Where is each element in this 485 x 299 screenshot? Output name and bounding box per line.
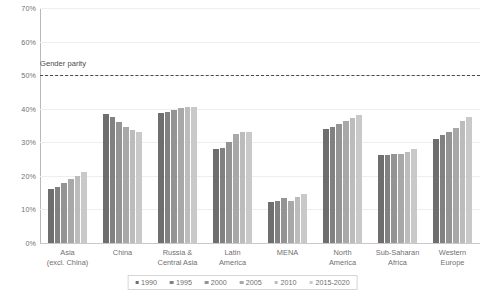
bar bbox=[55, 187, 61, 243]
x-axis-category-line: Asia bbox=[40, 248, 95, 258]
legend-item[interactable]: 2010 bbox=[275, 278, 297, 287]
bar bbox=[405, 152, 411, 243]
bar-group bbox=[433, 8, 472, 243]
bar-chart: 0%10%20%30%40%50%60%70% Gender parity As… bbox=[0, 0, 485, 299]
legend-item[interactable]: 2015-2020 bbox=[310, 278, 350, 287]
gender-parity-label: Gender parity bbox=[40, 59, 86, 68]
bar bbox=[453, 128, 459, 243]
bar bbox=[246, 132, 252, 243]
bar bbox=[136, 132, 142, 243]
bar bbox=[130, 130, 136, 243]
bar bbox=[61, 183, 67, 243]
bar bbox=[165, 112, 171, 243]
y-axis-tick-label: 40% bbox=[2, 104, 36, 113]
x-axis-category-line: Russia & bbox=[150, 248, 205, 258]
legend-item[interactable]: 1995 bbox=[170, 278, 192, 287]
x-axis-category-line: MENA bbox=[260, 248, 315, 258]
gender-parity-line bbox=[40, 75, 480, 76]
x-axis-category-label: China bbox=[95, 248, 150, 274]
bar bbox=[110, 117, 116, 243]
bar-group bbox=[378, 8, 417, 243]
x-axis-category-line: America bbox=[315, 258, 370, 268]
legend-swatch-icon bbox=[135, 281, 138, 284]
bar bbox=[301, 194, 307, 243]
x-axis-category-line: Central Asia bbox=[150, 258, 205, 268]
bar bbox=[268, 202, 274, 243]
bar bbox=[220, 148, 226, 243]
legend-label: 2010 bbox=[281, 278, 297, 287]
bar bbox=[81, 172, 87, 243]
bar bbox=[323, 129, 329, 243]
legend-label: 2005 bbox=[246, 278, 262, 287]
bar bbox=[466, 117, 472, 243]
y-axis-tick-label: 10% bbox=[2, 205, 36, 214]
x-axis-category-line: Latin bbox=[205, 248, 260, 258]
x-axis-category-line: North bbox=[315, 248, 370, 258]
legend-swatch-icon bbox=[240, 281, 243, 284]
x-axis-labels: Asia(excl. China)ChinaRussia &Central As… bbox=[40, 248, 480, 274]
bar bbox=[330, 127, 336, 243]
y-axis-tick-label: 70% bbox=[2, 4, 36, 13]
bar bbox=[378, 155, 384, 243]
bar bbox=[103, 114, 109, 243]
y-axis-tick-label: 0% bbox=[2, 239, 36, 248]
bar bbox=[446, 132, 452, 243]
bar bbox=[281, 198, 287, 243]
y-axis-tick-label: 30% bbox=[2, 138, 36, 147]
x-axis-category-label: NorthAmerica bbox=[315, 248, 370, 274]
bar-group bbox=[323, 8, 362, 243]
bar bbox=[158, 113, 164, 243]
legend-item[interactable]: 1990 bbox=[135, 278, 157, 287]
bar bbox=[233, 134, 239, 243]
y-axis-tick-label: 20% bbox=[2, 171, 36, 180]
bar bbox=[213, 149, 219, 243]
x-axis-category-line: (excl. China) bbox=[40, 258, 95, 268]
gridline bbox=[40, 243, 480, 244]
legend-item[interactable]: 2000 bbox=[205, 278, 227, 287]
legend-label: 2015-2020 bbox=[315, 278, 349, 287]
bar bbox=[288, 201, 294, 243]
bar-group bbox=[213, 8, 252, 243]
bar bbox=[336, 124, 342, 243]
x-axis-category-line: China bbox=[95, 248, 150, 258]
legend-item[interactable]: 2005 bbox=[240, 278, 262, 287]
legend-label: 1995 bbox=[176, 278, 192, 287]
legend-swatch-icon bbox=[205, 281, 208, 284]
x-axis-category-label: Asia(excl. China) bbox=[40, 248, 95, 274]
x-axis-category-label: Russia &Central Asia bbox=[150, 248, 205, 274]
x-axis-category-label: LatinAmerica bbox=[205, 248, 260, 274]
x-axis-category-label: Sub-SaharanAfrica bbox=[370, 248, 425, 274]
x-axis-category-label: MENA bbox=[260, 248, 315, 274]
plot-area: Gender parity bbox=[40, 8, 480, 243]
bar bbox=[48, 189, 54, 243]
bar bbox=[123, 127, 129, 243]
bar bbox=[356, 115, 362, 243]
bar bbox=[275, 201, 281, 243]
x-axis-category-line: Africa bbox=[370, 258, 425, 268]
legend-label: 2000 bbox=[211, 278, 227, 287]
bar-group bbox=[48, 8, 87, 243]
bar bbox=[398, 154, 404, 243]
bar-group bbox=[268, 8, 307, 243]
bar bbox=[350, 118, 356, 243]
bar-group bbox=[158, 8, 197, 243]
bar-group bbox=[103, 8, 142, 243]
bar bbox=[178, 108, 184, 243]
y-axis-tick-label: 60% bbox=[2, 37, 36, 46]
bar bbox=[433, 139, 439, 243]
x-axis-category-line: America bbox=[205, 258, 260, 268]
x-axis-category-line: Europe bbox=[425, 258, 480, 268]
y-axis-tick-label: 50% bbox=[2, 71, 36, 80]
bar bbox=[440, 135, 446, 243]
bar bbox=[391, 154, 397, 243]
bar bbox=[385, 155, 391, 243]
bar bbox=[68, 179, 74, 243]
bar bbox=[460, 121, 466, 243]
x-axis-category-line: Sub-Saharan bbox=[370, 248, 425, 258]
x-axis-category-label: WesternEurope bbox=[425, 248, 480, 274]
bar bbox=[191, 107, 197, 243]
bar bbox=[171, 110, 177, 243]
bar bbox=[116, 122, 122, 243]
legend-swatch-icon bbox=[275, 281, 278, 284]
bar bbox=[185, 107, 191, 243]
